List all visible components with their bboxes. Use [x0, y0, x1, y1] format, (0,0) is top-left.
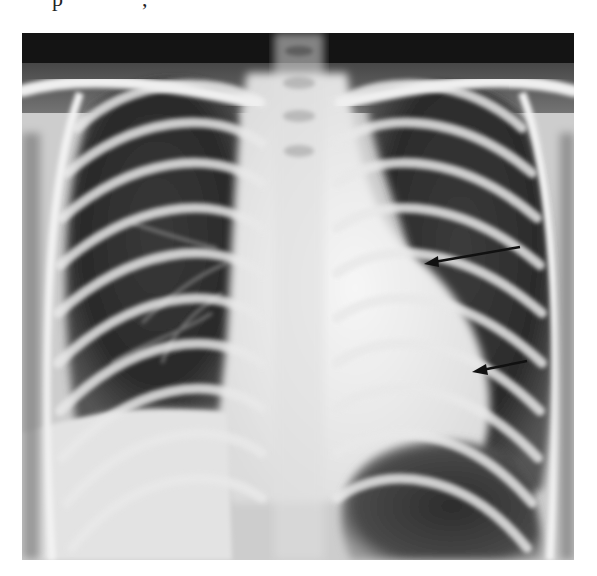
spine	[274, 33, 324, 560]
caption-glyph: p	[52, 0, 63, 12]
caption-glyph: ,	[142, 0, 148, 12]
cropped-caption-text: p ,	[0, 0, 597, 6]
chest-xray-image	[22, 33, 574, 560]
